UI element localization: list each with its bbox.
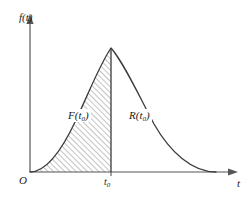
cumulative-region-label-close: ) (85, 109, 89, 121)
origin-label: O (19, 175, 27, 186)
y-axis-label: f(t) (19, 12, 32, 23)
x-tick-label-t0-subscript: 0 (107, 181, 111, 189)
reliability-region-label-base: R(t (129, 109, 142, 121)
x-axis-label: t (237, 178, 240, 189)
reliability-region-label: R(t0) (127, 109, 152, 122)
diagram-canvas (0, 0, 251, 198)
reliability-region-label-subscript: 0 (142, 115, 146, 123)
reliability-region-label-close: ) (146, 109, 150, 121)
cumulative-region-label: F(t0) (66, 109, 91, 122)
cumulative-region-label-base: F(t (68, 109, 81, 121)
x-tick-label-t0: t0 (104, 177, 110, 187)
cumulative-region-label-subscript: 0 (81, 115, 85, 123)
x-axis-arrow-icon (228, 168, 238, 175)
figure-container: f(t) t O t0 F(t0) R(t0) (0, 0, 251, 198)
